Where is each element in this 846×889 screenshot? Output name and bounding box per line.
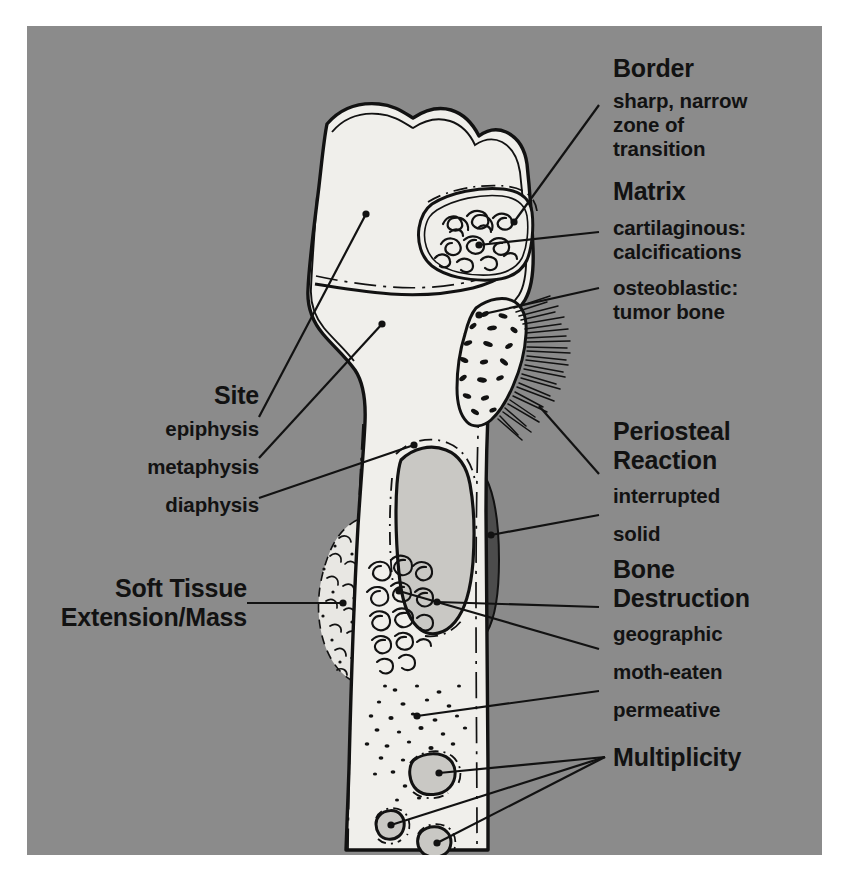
bone-illustration: [308, 104, 570, 855]
label-matrix-osteoblastic: osteoblastic:: [613, 276, 738, 300]
label-destruction-heading-1: Bone: [613, 555, 675, 584]
label-periosteal-heading-1: Periosteal: [613, 417, 731, 446]
diagram-panel: Border sharp, narrow zone of transition …: [27, 26, 822, 855]
label-destruction-geographic: geographic: [613, 622, 723, 646]
label-soft-tissue-heading-1: Soft Tissue: [27, 574, 247, 603]
label-matrix-cartilaginous: cartilaginous:: [613, 216, 746, 240]
label-matrix-calcifications: calcifications: [613, 240, 742, 264]
label-destruction-heading-2: Destruction: [613, 584, 750, 613]
leader-interrupted: [539, 406, 599, 474]
label-soft-tissue-heading-2: Extension/Mass: [27, 603, 247, 632]
figure-root: Border sharp, narrow zone of transition …: [0, 0, 846, 889]
label-periosteal-interrupted: interrupted: [613, 484, 720, 508]
leader-solid: [491, 515, 599, 535]
label-periosteal-heading-2: Reaction: [613, 446, 717, 475]
label-border-detail-1: sharp, narrow: [613, 89, 747, 113]
label-periosteal-solid: solid: [613, 522, 660, 546]
label-border-detail-2: zone of: [613, 113, 684, 137]
label-site-heading: Site: [47, 381, 259, 410]
label-border-detail-3: transition: [613, 137, 705, 161]
label-multiplicity-heading: Multiplicity: [613, 743, 741, 772]
label-matrix-heading: Matrix: [613, 177, 685, 206]
label-destruction-moth-eaten: moth-eaten: [613, 660, 722, 684]
label-destruction-permeative: permeative: [613, 698, 720, 722]
label-site-epiphysis: epiphysis: [47, 417, 259, 441]
label-site-metaphysis: metaphysis: [47, 455, 259, 479]
label-matrix-tumor-bone: tumor bone: [613, 300, 725, 324]
label-border-heading: Border: [613, 54, 694, 83]
label-site-diaphysis: diaphysis: [47, 493, 259, 517]
